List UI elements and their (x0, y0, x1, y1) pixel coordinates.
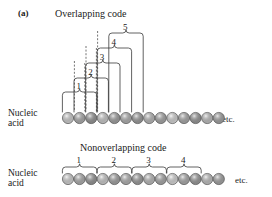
diagram-canvas (0, 0, 272, 197)
overlapping-bracket-group (62, 30, 143, 113)
nucleotide-bead-shading (155, 173, 166, 184)
nucleotide-bead-shading (144, 112, 155, 123)
nucleotide-bead-shading (167, 173, 178, 184)
nonoverlapping-bracket-group (62, 164, 201, 174)
overlapping-nucleotide-chain (62, 112, 224, 123)
nucleotide-bead-shading (62, 112, 73, 123)
nucleotide-bead-shading (74, 173, 85, 184)
nonoverlapping-codon-number-4: 4 (181, 156, 186, 165)
nucleotide-bead-shading (109, 173, 120, 184)
overlapping-codon-number-5: 5 (123, 23, 128, 32)
nonoverlapping-codon-number-1: 1 (77, 156, 82, 165)
nucleotide-bead-shading (213, 173, 224, 184)
nucleotide-bead-shading (97, 173, 108, 184)
overlapping-codon-number-1: 1 (77, 82, 82, 91)
nucleotide-bead-shading (74, 112, 85, 123)
nucleotide-bead-shading (120, 173, 131, 184)
nonoverlapping-codon-number-2: 2 (111, 156, 116, 165)
nucleotide-bead-shading (62, 173, 73, 184)
nucleotide-bead-shading (132, 173, 143, 184)
nonoverlapping-codon-bracket-1 (62, 164, 96, 174)
overlapping-codon-number-4: 4 (111, 38, 116, 47)
nonoverlapping-codon-bracket-2 (97, 164, 131, 174)
nucleotide-bead-shading (178, 173, 189, 184)
nucleotide-bead-shading (202, 173, 213, 184)
nucleotide-bead-shading (213, 112, 224, 123)
nonoverlapping-codon-bracket-3 (132, 164, 166, 174)
figure-overlapping-vs-nonoverlapping-code: (a) Overlapping code Nonoverlapping code… (0, 0, 272, 197)
nucleotide-bead-shading (86, 112, 97, 123)
nucleotide-bead-shading (202, 112, 213, 123)
nonoverlapping-codon-bracket-4 (167, 164, 201, 174)
overlapping-codon-number-2: 2 (88, 68, 93, 77)
nonoverlapping-nucleotide-chain (62, 173, 224, 184)
nucleotide-bead-shading (190, 173, 201, 184)
nucleotide-bead-shading (132, 112, 143, 123)
overlapping-codon-number-3: 3 (100, 53, 105, 62)
nucleotide-bead-shading (120, 112, 131, 123)
nucleotide-bead-shading (86, 173, 97, 184)
nucleotide-bead-shading (144, 173, 155, 184)
nucleotide-bead-shading (167, 112, 178, 123)
nonoverlapping-codon-number-3: 3 (146, 156, 151, 165)
nucleotide-bead-shading (178, 112, 189, 123)
nucleotide-bead-shading (190, 112, 201, 123)
nucleotide-bead-shading (97, 112, 108, 123)
overlapping-codon-bracket-1 (62, 89, 96, 113)
nucleotide-bead-shading (155, 112, 166, 123)
nucleotide-bead-shading (109, 112, 120, 123)
